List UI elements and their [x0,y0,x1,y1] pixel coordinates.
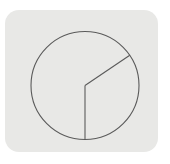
icon-canvas [0,0,170,164]
pie-chart-icon[interactable] [0,0,170,164]
